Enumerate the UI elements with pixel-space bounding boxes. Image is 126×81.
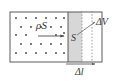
length-element-label: Δl xyxy=(75,67,84,77)
figure-canvas xyxy=(0,0,126,81)
charge-density-area-label: ρS xyxy=(36,20,47,31)
physics-figure: ρS S ΔV Δl xyxy=(0,0,126,81)
medium-boundary-box xyxy=(10,12,102,62)
cross-section-label: S xyxy=(71,33,76,43)
volume-element-label: ΔV xyxy=(96,17,108,27)
